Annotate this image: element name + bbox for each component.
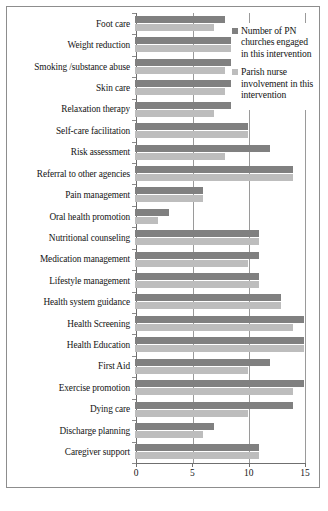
x-tick <box>305 463 306 467</box>
bar-series-1 <box>135 302 281 309</box>
category-label: Foot care <box>7 19 135 29</box>
category-label: Referral to other agencies <box>7 169 135 179</box>
category-label: Health Education <box>7 340 135 350</box>
bar-series-0 <box>135 402 293 409</box>
bar-series-0 <box>135 444 259 451</box>
category-label: Caregiver support <box>7 447 135 457</box>
bar-series-1 <box>135 367 248 374</box>
legend-label-0: Number of PN churches engaged in this in… <box>241 25 316 59</box>
bar-series-1 <box>135 153 225 160</box>
bar-series-0 <box>135 316 304 323</box>
x-tick <box>192 463 193 467</box>
bar-group <box>135 249 319 270</box>
bar-group <box>135 227 319 248</box>
category-label: Weight reduction <box>7 40 135 50</box>
chart-row: Pain management <box>7 184 319 205</box>
chart-figure: Foot careWeight reductionSmoking /substa… <box>6 6 320 488</box>
bar-series-1 <box>135 238 259 245</box>
bar-series-1 <box>135 324 293 331</box>
x-axis-tick-labels: 051015 <box>136 468 306 482</box>
bar-group <box>135 291 319 312</box>
chart-row: Nutritional counseling <box>7 227 319 248</box>
chart-legend: Number of PN churches engaged in this in… <box>231 23 317 110</box>
bar-group <box>135 334 319 355</box>
bar-series-0 <box>135 209 169 216</box>
bar-series-1 <box>135 410 248 417</box>
category-label: Oral health promotion <box>7 212 135 222</box>
category-label: First Aid <box>7 361 135 371</box>
bar-series-0 <box>135 102 236 109</box>
bar-series-0 <box>135 273 259 280</box>
bar-series-0 <box>135 16 225 23</box>
bar-series-1 <box>135 131 248 138</box>
bar-group <box>135 356 319 377</box>
category-label: Nutritional counseling <box>7 233 135 243</box>
bar-series-0 <box>135 337 304 344</box>
bar-series-0 <box>135 187 203 194</box>
legend-item-1: Parish nurse involvement in this interve… <box>232 66 316 100</box>
chart-row: Lifestyle management <box>7 270 319 291</box>
bar-series-1 <box>135 110 214 117</box>
category-label: Dying care <box>7 404 135 414</box>
chart-row: Oral health promotion <box>7 206 319 227</box>
category-label: Pain management <box>7 190 135 200</box>
chart-row: Health Education <box>7 334 319 355</box>
legend-label-1: Parish nurse involvement in this interve… <box>241 66 316 100</box>
chart-row: Exercise promotion <box>7 377 319 398</box>
bar-series-0 <box>135 423 214 430</box>
bar-group <box>135 163 319 184</box>
category-label: Lifestyle management <box>7 276 135 286</box>
chart-row: Caregiver support <box>7 441 319 462</box>
chart-row: Dying care <box>7 399 319 420</box>
bar-series-1 <box>135 24 214 31</box>
bar-group <box>135 399 319 420</box>
category-label: Exercise promotion <box>7 383 135 393</box>
chart-row: Discharge planning <box>7 420 319 441</box>
x-tick-label: 15 <box>300 468 310 478</box>
bar-group <box>135 206 319 227</box>
bar-series-0 <box>135 80 236 87</box>
category-label: Smoking /substance abuse <box>7 62 135 72</box>
chart-row: Medication management <box>7 249 319 270</box>
category-label: Skin care <box>7 83 135 93</box>
category-label: Risk assessment <box>7 147 135 157</box>
x-tick-label: 5 <box>190 468 195 478</box>
bar-series-0 <box>135 123 248 130</box>
legend-swatch-icon-1 <box>232 69 238 75</box>
bar-series-1 <box>135 260 248 267</box>
bar-series-0 <box>135 37 236 44</box>
bar-group <box>135 441 319 462</box>
category-label: Health system guidance <box>7 297 135 307</box>
bar-series-1 <box>135 195 203 202</box>
bar-series-0 <box>135 230 259 237</box>
bar-series-1 <box>135 88 225 95</box>
bar-group <box>135 184 319 205</box>
category-label: Health Screening <box>7 319 135 329</box>
bar-series-1 <box>135 281 259 288</box>
chart-row: Referral to other agencies <box>7 163 319 184</box>
bar-series-0 <box>135 145 270 152</box>
bar-series-0 <box>135 59 236 66</box>
category-label: Relaxation therapy <box>7 104 135 114</box>
bar-series-1 <box>135 217 158 224</box>
category-label: Medication management <box>7 254 135 264</box>
x-tick-label: 0 <box>134 468 139 478</box>
bar-series-1 <box>135 388 293 395</box>
legend-item-0: Number of PN churches engaged in this in… <box>232 25 316 59</box>
chart-row: Health system guidance <box>7 291 319 312</box>
bar-series-0 <box>135 166 293 173</box>
bar-series-1 <box>135 431 203 438</box>
chart-row: Risk assessment <box>7 142 319 163</box>
bar-series-0 <box>135 252 259 259</box>
bar-series-0 <box>135 294 281 301</box>
bar-series-1 <box>135 345 304 352</box>
category-label: Discharge planning <box>7 426 135 436</box>
bar-series-1 <box>135 45 236 52</box>
category-label: Self-care facilitation <box>7 126 135 136</box>
bar-series-1 <box>135 174 293 181</box>
bar-group <box>135 313 319 334</box>
x-tick <box>136 463 137 467</box>
bar-group <box>135 142 319 163</box>
legend-swatch-icon-0 <box>232 28 238 34</box>
bar-group <box>135 377 319 398</box>
